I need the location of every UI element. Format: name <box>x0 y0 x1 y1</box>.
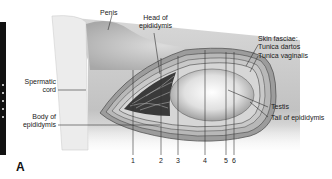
label-line: epididymis <box>10 121 56 129</box>
label-tunica-dartos: Tunica dartos <box>258 43 300 51</box>
layer-number-2: 2 <box>158 157 164 164</box>
panel-label: A <box>16 160 25 174</box>
layer-number-5: 5 <box>223 157 229 164</box>
bar-mark <box>2 116 4 118</box>
layer-number-6: 6 <box>231 157 237 164</box>
label-line: cord <box>16 86 56 94</box>
label-tunica-vaginalis: Tunica vaginalis <box>258 52 308 60</box>
layer-number-3: 3 <box>175 157 181 164</box>
anatomy-figure: Penis Head of epididymis Spermatic cord … <box>0 0 332 179</box>
page-edge-bar <box>0 22 6 155</box>
label-line: Head of <box>139 14 172 22</box>
label-tail-of-epididymis: Tail of epididymis <box>271 114 324 122</box>
bar-mark <box>2 100 4 102</box>
label-line: Body of <box>10 113 56 121</box>
layer-number-1: 1 <box>130 157 136 164</box>
label-skin-fasciae: Skin fasciae: <box>258 35 298 43</box>
label-body-of-epididymis: Body of epididymis <box>10 113 56 129</box>
testis-shape <box>170 69 254 121</box>
bar-mark <box>2 108 4 110</box>
label-line: Spermatic <box>16 78 56 86</box>
label-spermatic-cord: Spermatic cord <box>16 78 56 94</box>
thigh-strip <box>52 16 88 150</box>
bar-mark <box>2 92 4 94</box>
label-penis: Penis <box>100 9 118 17</box>
layer-number-4: 4 <box>202 157 208 164</box>
label-testis: Testis <box>271 103 289 111</box>
label-head-of-epididymis: Head of epididymis <box>139 14 172 30</box>
bar-mark <box>2 84 4 86</box>
label-line: epididymis <box>139 22 172 30</box>
